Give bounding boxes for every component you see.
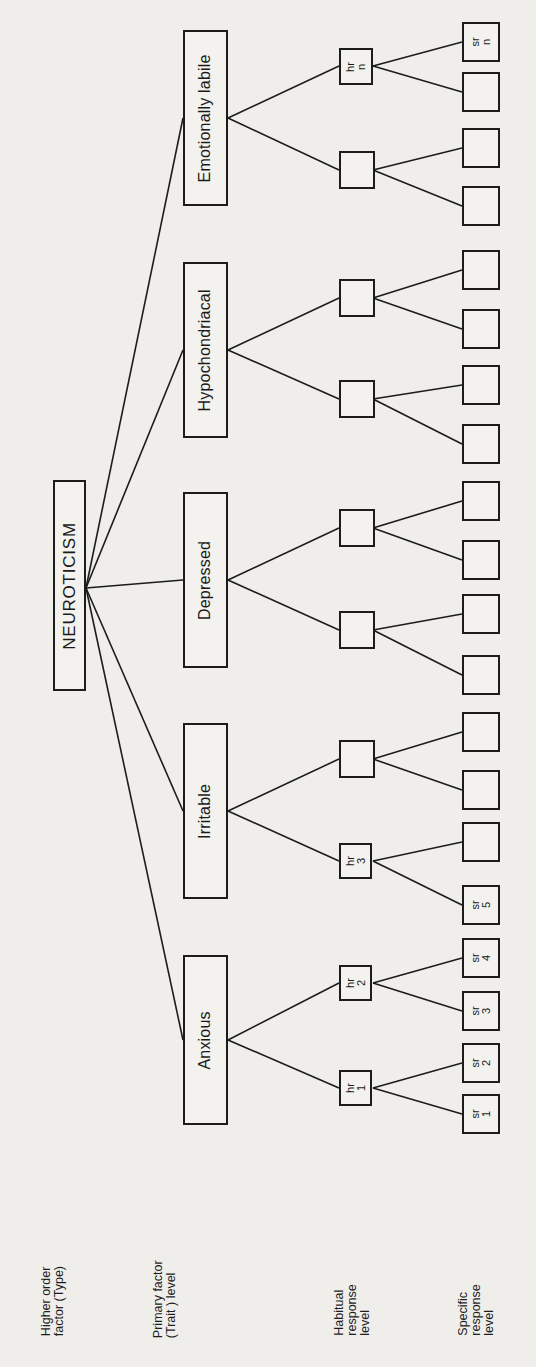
primary-factor-hypochondriacal[interactable]: Hypochondriacal: [183, 262, 228, 438]
habitual-response-label: hr 3: [345, 856, 367, 866]
habitual-response-hr1[interactable]: hr 1: [339, 1070, 372, 1106]
axis-label-line3: level: [360, 1210, 373, 1336]
specific-response-sr1[interactable]: sr 1: [462, 1094, 500, 1134]
habitual-response-hr7[interactable]: [339, 380, 375, 418]
primary-factor-anxious[interactable]: Anxious: [183, 955, 228, 1125]
habitual-response-hr8[interactable]: [339, 279, 375, 317]
habitual-response-label: hr 1: [345, 1083, 367, 1093]
habitual-response-hr2[interactable]: hr 2: [339, 965, 372, 1001]
specific-response-sr7[interactable]: [462, 770, 500, 810]
habitual-response-label: hr 2: [345, 978, 367, 988]
axis-label-line3: level: [484, 1210, 497, 1336]
specific-response-sr6[interactable]: [462, 822, 500, 862]
primary-factor-irritable[interactable]: Irritable: [183, 723, 228, 899]
specific-response-sr2[interactable]: sr 2: [462, 1043, 500, 1083]
specific-response-sr12[interactable]: [462, 481, 500, 521]
specific-response-sr11[interactable]: [462, 540, 500, 580]
habitual-response-hr4[interactable]: [339, 740, 375, 778]
specific-response-sr13[interactable]: [462, 424, 500, 464]
axis-label-line2: factor (Type): [53, 1194, 66, 1336]
specific-response-sr5[interactable]: sr 5: [462, 885, 500, 925]
specific-response-sr4[interactable]: sr 4: [462, 938, 500, 978]
specific-response-label: sr 5: [470, 900, 492, 909]
axis-label-habitual-response: Habitual response level: [318, 1205, 388, 1345]
habitual-response-hr6[interactable]: [339, 509, 375, 547]
primary-factor-label: Hypochondriacal: [197, 289, 214, 411]
specific-response-label: sr 1: [470, 1109, 492, 1118]
primary-factor-emotionally-labile[interactable]: Emotionally labile: [183, 30, 228, 206]
specific-response-sr10[interactable]: [462, 594, 500, 634]
primary-factor-label: Irritable: [197, 783, 214, 838]
specific-response-label: sr 4: [470, 953, 492, 962]
specific-response-sr3[interactable]: sr 3: [462, 991, 500, 1031]
axis-label-higher-order-factor: Higher order factor (Type): [18, 1200, 88, 1340]
primary-factor-label: Emotionally labile: [197, 54, 214, 182]
habitual-response-hrn[interactable]: hr n: [339, 48, 373, 85]
habitual-response-label: hr n: [345, 62, 367, 72]
axis-label-line2: (Trait ) level: [165, 1192, 178, 1338]
specific-response-sr9[interactable]: [462, 655, 500, 695]
type-factor-label: NEUROTICISM: [61, 522, 79, 650]
habitual-response-hr9[interactable]: [339, 151, 375, 189]
specific-response-sr17[interactable]: [462, 186, 500, 226]
specific-response-sr16[interactable]: [462, 250, 500, 290]
specific-response-label: sr 3: [470, 1006, 492, 1015]
type-factor-neuroticism[interactable]: NEUROTICISM: [53, 480, 86, 691]
habitual-response-hr3[interactable]: hr 3: [339, 843, 372, 879]
specific-response-label: sr n: [470, 37, 492, 46]
specific-response-sr8[interactable]: [462, 712, 500, 752]
axis-label-primary-factor: Primary factor (Trait ) level: [130, 1200, 200, 1340]
habitual-response-hr5[interactable]: [339, 611, 375, 649]
specific-response-sr15[interactable]: [462, 309, 500, 349]
specific-response-label: sr 2: [470, 1058, 492, 1067]
specific-response-sr14[interactable]: [462, 365, 500, 405]
primary-factor-label: Depressed: [197, 540, 214, 619]
diagram-canvas: Higher order factor (Type) Primary facto…: [0, 0, 536, 1367]
primary-factor-label: Anxious: [197, 1011, 214, 1069]
specific-response-srn[interactable]: sr n: [462, 22, 500, 62]
specific-response-sr18[interactable]: [462, 128, 500, 168]
primary-factor-depressed[interactable]: Depressed: [183, 492, 228, 668]
axis-label-specific-response: Specific response level: [442, 1205, 512, 1345]
specific-response-sr19[interactable]: [462, 72, 500, 112]
